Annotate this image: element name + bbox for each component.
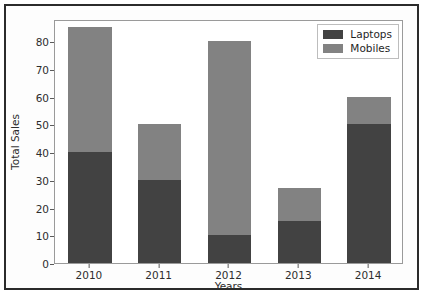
bar-segment-laptops-2013[interactable]: [278, 221, 321, 263]
bar-segment-mobiles-2012[interactable]: [208, 41, 251, 235]
chart-legend[interactable]: LaptopsMobiles: [317, 24, 399, 59]
bar-segment-laptops-2010[interactable]: [68, 152, 111, 263]
legend-label: Laptops: [350, 29, 392, 40]
legend-item-mobiles[interactable]: Mobiles: [323, 43, 392, 54]
bar-segment-laptops-2012[interactable]: [208, 235, 251, 263]
x-axis: 20102011201220132014: [54, 264, 403, 280]
x-tick-2012: 2012: [215, 264, 242, 281]
legend-swatch-laptops-icon: [323, 30, 343, 39]
bar-group-2012[interactable]: [208, 41, 251, 263]
x-tick-2010: 2010: [76, 264, 103, 281]
x-tick-mark: [368, 264, 369, 268]
legend-item-laptops[interactable]: Laptops: [323, 29, 392, 40]
bar-segment-laptops-2011[interactable]: [138, 180, 181, 263]
bar-group-2014[interactable]: [347, 97, 390, 263]
x-tick-mark: [158, 264, 159, 268]
figure-frame: Total Sales 01020304050607080 LaptopsMob…: [4, 4, 419, 290]
bar-segment-mobiles-2011[interactable]: [138, 124, 181, 179]
bar-segment-laptops-2014[interactable]: [347, 124, 390, 263]
bar-segment-mobiles-2010[interactable]: [68, 27, 111, 152]
bar-group-2010[interactable]: [68, 27, 111, 263]
x-axis-label: Years: [54, 280, 403, 292]
plot-area: LaptopsMobiles: [54, 20, 403, 264]
legend-swatch-mobiles-icon: [323, 44, 343, 53]
x-tick-2013: 2013: [285, 264, 312, 281]
legend-label: Mobiles: [350, 43, 390, 54]
bar-segment-mobiles-2014[interactable]: [347, 97, 390, 125]
bar-group-2011[interactable]: [138, 124, 181, 263]
bar-group-2013[interactable]: [278, 188, 321, 263]
x-tick-2014: 2014: [355, 264, 382, 281]
y-axis: 01020304050607080: [6, 20, 54, 264]
x-tick-2011: 2011: [145, 264, 172, 281]
x-tick-mark: [228, 264, 229, 268]
x-tick-mark: [298, 264, 299, 268]
bar-segment-mobiles-2013[interactable]: [278, 188, 321, 221]
x-tick-mark: [88, 264, 89, 268]
